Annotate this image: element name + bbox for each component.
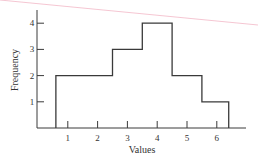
x-tick-label: 4 xyxy=(155,133,160,143)
x-tick-label: 5 xyxy=(185,133,190,143)
x-tick-label: 3 xyxy=(125,133,130,143)
x-tick-label: 6 xyxy=(215,133,220,143)
y-axis-label: Frequency xyxy=(9,49,20,91)
stray-line xyxy=(0,0,258,25)
y-tick-label: 3 xyxy=(30,44,35,54)
x-ticks: 123456 xyxy=(66,121,220,143)
histogram-outline xyxy=(56,23,229,128)
histogram-chart: 1234 123456 Values Frequency xyxy=(0,0,258,159)
y-tick-label: 4 xyxy=(30,18,35,28)
x-tick-label: 2 xyxy=(95,133,100,143)
x-axis-label: Values xyxy=(129,144,156,155)
y-tick-label: 1 xyxy=(30,97,35,107)
x-tick-label: 1 xyxy=(66,133,71,143)
y-tick-label: 2 xyxy=(30,71,35,81)
